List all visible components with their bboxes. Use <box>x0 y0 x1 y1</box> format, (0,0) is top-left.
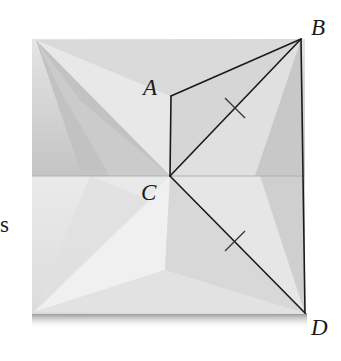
edge-text-fragment: s <box>0 213 9 236</box>
origami-figure: A B C D s <box>0 0 341 361</box>
label-point-d: D <box>311 316 328 339</box>
label-point-b: B <box>311 16 325 39</box>
segment-AC <box>170 96 171 176</box>
origami-square-diagram <box>0 0 341 361</box>
label-point-c: C <box>141 181 156 204</box>
paper-shadow <box>32 313 307 329</box>
label-point-a: A <box>143 76 157 99</box>
